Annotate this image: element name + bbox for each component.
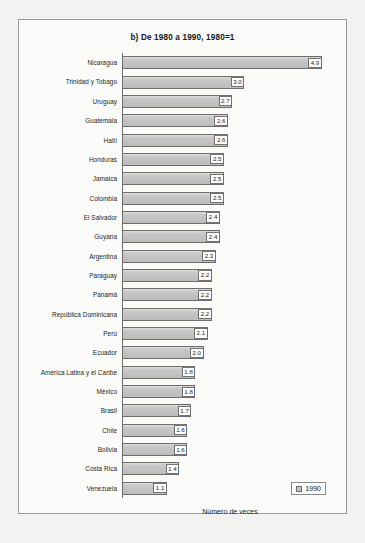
bar-track: 2.5 [122, 150, 338, 169]
bar-track: 1.8 [122, 382, 338, 401]
bar-track: 2.0 [122, 343, 338, 362]
bar: 2.4 [122, 230, 220, 243]
category-label: Haití [29, 137, 122, 144]
bar: 1.8 [122, 366, 195, 379]
category-label: Panamá [29, 291, 122, 298]
category-label: Ecuador [29, 349, 122, 356]
category-label: América Latina y el Caribe [29, 369, 122, 376]
category-label: Colombia [29, 195, 122, 202]
bar-track: 2.4 [122, 208, 338, 227]
bar-row: Bolivia1.6 [29, 440, 338, 459]
category-label: México [29, 388, 122, 395]
category-label: Nicaragua [29, 59, 122, 66]
bar-row: Paraguay2.2 [29, 266, 338, 285]
bar-row: Perú2.1 [29, 324, 338, 343]
bar-row: México1.8 [29, 382, 338, 401]
bar: 2.7 [122, 95, 232, 108]
bar-value-label: 2.4 [206, 232, 219, 242]
category-label: Venezuela [29, 485, 122, 492]
bar-row: República Dominicana2.2 [29, 304, 338, 323]
bar-value-label: 2.2 [198, 290, 211, 300]
bar-value-label: 2.5 [210, 174, 223, 184]
category-label: Trinidad y Tobago [29, 78, 122, 85]
bar: 1.7 [122, 404, 191, 417]
bar-row: El Salvador2.4 [29, 208, 338, 227]
bar: 2.6 [122, 114, 228, 127]
bar-value-label: 1.8 [182, 386, 195, 396]
bar: 2.2 [122, 308, 212, 321]
bar-value-label: 2.6 [214, 116, 227, 126]
category-label: Jamaica [29, 175, 122, 182]
bar: 2.5 [122, 172, 224, 185]
bar: 2.2 [122, 269, 212, 282]
bar-row: Uruguay2.7 [29, 92, 338, 111]
category-label: Paraguay [29, 272, 122, 279]
bar-value-label: 2.7 [219, 96, 232, 106]
bar-track: 2.2 [122, 285, 338, 304]
x-axis-label: Número de veces [122, 508, 338, 515]
bar-row: Ecuador2.0 [29, 343, 338, 362]
legend-label-1990: 1990 [305, 485, 321, 492]
chart-frame: b) De 1980 a 1990, 1980=1 Nicaragua4.9Tr… [18, 19, 347, 514]
bar-track: 1.8 [122, 363, 338, 382]
category-label: Brasil [29, 407, 122, 414]
category-label: El Salvador [29, 214, 122, 221]
bar-value-label: 1.6 [174, 425, 187, 435]
category-label: Bolivia [29, 446, 122, 453]
bar-track: 2.6 [122, 111, 338, 130]
bar-value-label: 3.0 [231, 77, 244, 87]
bar-row: Argentina2.3 [29, 246, 338, 265]
bar: 3.0 [122, 76, 244, 89]
bar-value-label: 1.6 [174, 445, 187, 455]
bar-track: 2.5 [122, 188, 338, 207]
bar: 2.4 [122, 211, 220, 224]
bar: 1.4 [122, 462, 179, 475]
category-label: Argentina [29, 253, 122, 260]
bar-row: América Latina y el Caribe1.8 [29, 363, 338, 382]
category-label: Uruguay [29, 98, 122, 105]
category-label: Guatemala [29, 117, 122, 124]
bar-rows: Nicaragua4.9Trinidad y Tobago3.0Uruguay2… [29, 53, 338, 498]
bar-value-label: 2.2 [198, 309, 211, 319]
bar-track: 2.2 [122, 266, 338, 285]
bar-value-label: 1.8 [182, 367, 195, 377]
category-label: Honduras [29, 156, 122, 163]
bar-value-label: 1.7 [178, 406, 191, 416]
bar: 1.6 [122, 424, 187, 437]
bar-row: Jamaica2.5 [29, 169, 338, 188]
bar-track: 2.1 [122, 324, 338, 343]
bar-row: Guatemala2.6 [29, 111, 338, 130]
bar-value-label: 2.2 [198, 270, 211, 280]
bar-row: Nicaragua4.9 [29, 53, 338, 72]
bar-track: 2.6 [122, 130, 338, 149]
category-label: Perú [29, 330, 122, 337]
bar-row: Guyana2.4 [29, 227, 338, 246]
bar: 2.1 [122, 327, 208, 340]
bar-track: 2.2 [122, 304, 338, 323]
bar-track: 4.9 [122, 53, 338, 72]
bar-row: Brasil1.7 [29, 401, 338, 420]
bar-row: Trinidad y Tobago3.0 [29, 72, 338, 91]
bar-track: 2.4 [122, 227, 338, 246]
bar: 2.6 [122, 134, 228, 147]
bar: 2.3 [122, 250, 216, 263]
plot-area: Nicaragua4.9Trinidad y Tobago3.0Uruguay2… [29, 53, 338, 503]
page-background: b) De 1980 a 1990, 1980=1 Nicaragua4.9Tr… [0, 0, 365, 543]
bar-row: Colombia2.5 [29, 188, 338, 207]
bar-value-label: 1.1 [153, 483, 166, 493]
bar: 2.5 [122, 153, 224, 166]
bar-value-label: 2.5 [210, 154, 223, 164]
bar-value-label: 2.4 [206, 212, 219, 222]
bar-track: 1.6 [122, 440, 338, 459]
category-label: Costa Rica [29, 465, 122, 472]
bar-value-label: 2.1 [194, 328, 207, 338]
bar-row: Costa Rica1.4 [29, 459, 338, 478]
bar-value-label: 2.3 [202, 251, 215, 261]
category-label: Guyana [29, 233, 122, 240]
chart-title: b) De 1980 a 1990, 1980=1 [19, 33, 346, 42]
bar-row: Chile1.6 [29, 421, 338, 440]
bar-track: 1.7 [122, 401, 338, 420]
bar-row: Honduras2.5 [29, 150, 338, 169]
legend-swatch-1990 [296, 486, 302, 492]
bar: 1.6 [122, 443, 187, 456]
